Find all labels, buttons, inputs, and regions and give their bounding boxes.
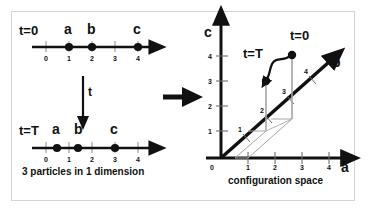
- axis-label-a: a: [341, 160, 349, 174]
- particle-label-a-tT: a: [52, 122, 60, 136]
- number-line-t0: [32, 41, 150, 52]
- tick-a-4: 4: [327, 164, 331, 171]
- number-line-tT: [32, 142, 150, 153]
- state-point-t0: [288, 51, 296, 59]
- left-panel-caption: 3 particles in 1 dimension: [22, 167, 144, 177]
- particle-b-t0: [88, 43, 96, 51]
- axis-label-c: c: [204, 25, 212, 39]
- tick-b-1: 1: [238, 126, 242, 133]
- particle-label-c-t0: c: [133, 22, 141, 36]
- particle-label-b-tT: b: [74, 122, 83, 136]
- label-t0: t=0: [19, 24, 38, 37]
- tick-t0-1: 1: [67, 55, 71, 62]
- particle-label-c-tT: c: [110, 122, 118, 136]
- tick-t0-0: 0: [44, 55, 48, 62]
- trajectory-path: [267, 55, 291, 79]
- tick-a-2: 2: [273, 164, 277, 171]
- axis-label-b: b: [332, 55, 341, 69]
- tick-tT-0: 0: [44, 156, 48, 163]
- tick-t0-3: 3: [113, 55, 117, 62]
- tick-t0-4: 4: [136, 55, 140, 62]
- particle-c-t0: [134, 43, 142, 51]
- particle-label-b-t0: b: [87, 22, 96, 36]
- tick-tT-2: 2: [90, 156, 94, 163]
- tick-tT-1: 1: [67, 156, 71, 163]
- particle-label-a-t0: a: [64, 22, 72, 36]
- tick-a-0: 0: [210, 164, 214, 171]
- tick-c-2: 2: [208, 103, 212, 110]
- tick-tT-4: 4: [136, 156, 140, 163]
- tick-c-3: 3: [208, 78, 212, 85]
- tick-a-1: 1: [246, 164, 250, 171]
- label-tT: t=T: [19, 124, 39, 137]
- configuration-space-axes: [206, 24, 342, 164]
- tick-a-3: 3: [300, 164, 304, 171]
- tick-tT-3: 3: [113, 156, 117, 163]
- tick-c-4: 4: [208, 53, 212, 60]
- tick-b-2: 2: [260, 107, 264, 114]
- transition-label-t: t: [88, 86, 92, 98]
- tick-b-3: 3: [282, 88, 286, 95]
- state-label-tT: t=T: [243, 47, 263, 60]
- right-panel-caption: configuration space: [228, 176, 323, 186]
- tick-t0-2: 2: [90, 55, 94, 62]
- particle-b-tT: [74, 144, 82, 152]
- tick-c-1: 1: [208, 128, 212, 135]
- particle-a-tT: [53, 144, 61, 152]
- figure-canvas: t=0 a b c 0 1 2 3 4 t t=T a b c 0 1 2 3 …: [0, 0, 368, 215]
- particle-c-tT: [111, 144, 119, 152]
- state-label-t0: t=0: [290, 29, 309, 42]
- particle-a-t0: [65, 43, 73, 51]
- state-point-tT: [262, 77, 270, 85]
- tick-b-4: 4: [304, 68, 308, 75]
- transform-arrow: [163, 87, 203, 107]
